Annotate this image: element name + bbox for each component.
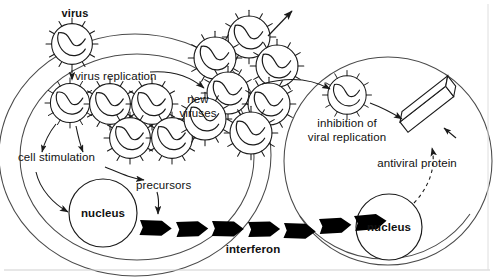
interferon-chain	[139, 213, 387, 239]
interferon-diagram: virus virus replication new viruses cell…	[0, 0, 494, 277]
arrow-stimulation-b	[76, 126, 83, 152]
label-new-viruses-line2: viruses	[179, 107, 216, 119]
label-antiviral-protein: antiviral protein	[377, 157, 457, 169]
arrow-precursors-to-interferon	[157, 192, 159, 214]
label-inhibition-line2: viral replication	[308, 131, 386, 143]
label-new-viruses-line1: new	[187, 93, 208, 105]
label-virus-replication: virus replication	[75, 70, 157, 82]
label-nucleus-right: nucleus	[367, 221, 411, 233]
label-interferon: interferon	[226, 243, 281, 255]
label-virus: virus	[62, 8, 89, 20]
arrow-protein-inhibition	[444, 128, 456, 138]
antiviral-protein-shape	[396, 76, 460, 132]
label-precursors: precursors	[136, 179, 191, 191]
virus-entering-right-cell	[323, 71, 372, 120]
arrow-stimulation-a	[42, 124, 56, 152]
label-nucleus-left: nucleus	[81, 207, 125, 219]
diagram-canvas	[0, 0, 494, 277]
virus-replication-cluster	[84, 78, 198, 164]
label-cell-stimulation: cell stimulation	[18, 151, 95, 163]
arrow-stimulation-to-nucleus	[36, 172, 68, 212]
virus-released-cluster	[178, 10, 304, 160]
label-inhibition-line1: inhibition of	[317, 117, 376, 129]
